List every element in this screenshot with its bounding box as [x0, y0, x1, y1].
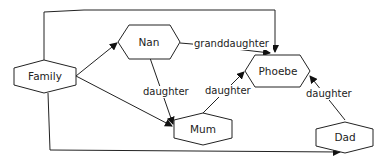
node-phoebe[interactable]: Phoebe [245, 55, 310, 87]
node-label-dad: Dad [334, 131, 355, 143]
node-dad[interactable]: Dad [316, 122, 373, 153]
node-label-phoebe: Phoebe [259, 65, 298, 77]
label-nan-mum-daughter: daughter [143, 86, 190, 97]
node-family[interactable]: Family [14, 60, 76, 93]
node-mum[interactable]: Mum [174, 113, 232, 145]
edge-family-nan [76, 43, 117, 76]
label-mum-phoebe-daughter: daughter [205, 85, 252, 96]
label-dad-phoebe-daughter: daughter [306, 88, 353, 99]
node-label-family: Family [28, 70, 62, 82]
node-label-nan: Nan [139, 36, 160, 48]
label-granddaughter: granddaughter [194, 38, 270, 49]
node-label-mum: Mum [190, 123, 216, 135]
edge-family-mum [76, 76, 172, 126]
family-diagram: granddaughter daughter daughter daughter… [0, 0, 387, 164]
node-nan[interactable]: Nan [118, 25, 180, 59]
